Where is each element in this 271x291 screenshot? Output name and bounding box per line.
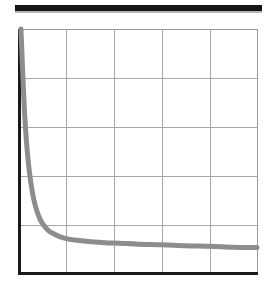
y-axis bbox=[18, 29, 21, 275]
gridline-vertical-2 bbox=[114, 29, 115, 273]
x-axis bbox=[18, 272, 258, 275]
plot-area bbox=[18, 29, 257, 273]
gridline-vertical-1 bbox=[66, 29, 67, 273]
gridline-horizontal-1 bbox=[20, 78, 258, 79]
plot-border-right bbox=[257, 29, 258, 274]
top-rule-shadow bbox=[15, 11, 262, 13]
gridline-vertical-3 bbox=[162, 29, 163, 273]
gridline-horizontal-3 bbox=[20, 176, 258, 177]
plot-border-top bbox=[18, 29, 258, 30]
gridline-horizontal-2 bbox=[20, 127, 258, 128]
gridline-vertical-4 bbox=[210, 29, 211, 273]
gridline-horizontal-4 bbox=[20, 225, 258, 226]
figure-root bbox=[0, 0, 271, 291]
